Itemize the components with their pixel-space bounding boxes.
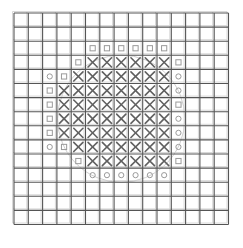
- x-mark: [102, 142, 111, 151]
- x-mark: [74, 142, 83, 151]
- x-mark: [117, 114, 126, 123]
- square-marker: [176, 102, 181, 107]
- x-mark: [117, 128, 126, 137]
- x-mark: [74, 72, 83, 81]
- square-marker: [162, 46, 167, 51]
- x-mark: [88, 156, 97, 165]
- x-mark: [131, 72, 140, 81]
- square-marker: [47, 130, 52, 135]
- x-mark: [88, 128, 97, 137]
- x-mark: [102, 114, 111, 123]
- square-marker: [133, 46, 138, 51]
- square-marker: [147, 46, 152, 51]
- x-mark: [131, 114, 140, 123]
- circle-marker: [176, 130, 181, 135]
- square-marker: [90, 46, 95, 51]
- x-mark: [160, 128, 169, 137]
- x-mark: [117, 72, 126, 81]
- square-marker: [176, 60, 181, 65]
- x-mark: [131, 128, 140, 137]
- x-mark: [102, 58, 111, 67]
- x-mark: [131, 58, 140, 67]
- grid-diagram: [0, 0, 243, 248]
- x-mark: [131, 142, 140, 151]
- x-mark: [102, 128, 111, 137]
- circle-marker: [133, 173, 138, 178]
- x-mark: [88, 114, 97, 123]
- x-mark: [59, 86, 68, 95]
- square-marker: [76, 60, 81, 65]
- x-mark: [74, 86, 83, 95]
- x-mark: [160, 100, 169, 109]
- x-mark: [102, 86, 111, 95]
- x-mark: [102, 100, 111, 109]
- x-mark: [131, 100, 140, 109]
- x-mark: [88, 58, 97, 67]
- x-mark: [102, 72, 111, 81]
- figure-canvas: [0, 0, 243, 248]
- x-mark: [102, 156, 111, 165]
- x-mark: [59, 128, 68, 137]
- x-mark: [145, 72, 154, 81]
- x-mark: [160, 114, 169, 123]
- circle-marker: [47, 74, 52, 79]
- circle-marker: [176, 116, 181, 121]
- circle-marker: [104, 173, 109, 178]
- x-mark: [160, 58, 169, 67]
- x-mark: [59, 100, 68, 109]
- x-mark: [88, 100, 97, 109]
- x-mark: [117, 142, 126, 151]
- x-mark: [88, 72, 97, 81]
- x-mark: [160, 72, 169, 81]
- x-mark: [145, 86, 154, 95]
- x-mark: [160, 142, 169, 151]
- circle-marker: [47, 144, 52, 149]
- circle-marker: [162, 173, 167, 178]
- x-mark: [145, 114, 154, 123]
- x-mark: [145, 156, 154, 165]
- x-mark: [145, 100, 154, 109]
- square-marker: [47, 88, 52, 93]
- x-mark: [74, 114, 83, 123]
- x-mark: [117, 156, 126, 165]
- x-mark: [145, 58, 154, 67]
- x-mark: [160, 156, 169, 165]
- x-mark: [88, 142, 97, 151]
- square-marker: [176, 158, 181, 163]
- square-marker: [104, 46, 109, 51]
- x-mark: [117, 86, 126, 95]
- square-marker: [47, 116, 52, 121]
- x-mark: [88, 86, 97, 95]
- x-mark: [117, 58, 126, 67]
- square-marker: [119, 46, 124, 51]
- circle-marker: [119, 173, 124, 178]
- x-mark: [160, 86, 169, 95]
- x-mark: [74, 128, 83, 137]
- x-mark: [131, 156, 140, 165]
- square-marker: [61, 74, 66, 79]
- x-mark: [59, 114, 68, 123]
- x-mark: [145, 128, 154, 137]
- circle-marker: [176, 74, 181, 79]
- x-mark: [145, 142, 154, 151]
- square-marker: [47, 102, 52, 107]
- x-mark: [131, 86, 140, 95]
- square-marker: [76, 158, 81, 163]
- x-mark: [117, 100, 126, 109]
- x-mark: [74, 100, 83, 109]
